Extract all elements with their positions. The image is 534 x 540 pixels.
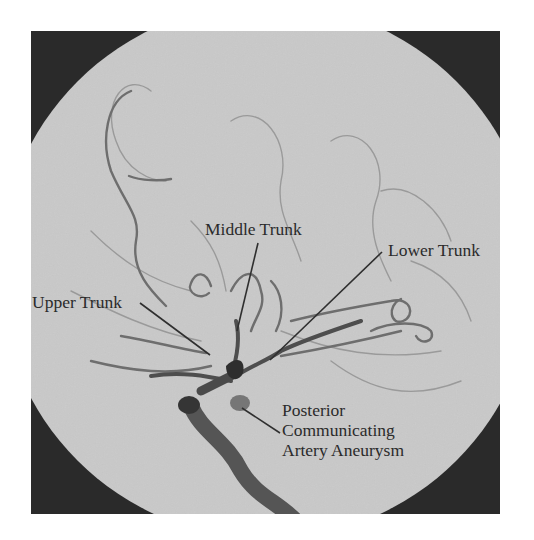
label-upper-trunk: Upper Trunk xyxy=(32,292,122,312)
field-of-view xyxy=(31,31,500,514)
angiogram-image xyxy=(31,31,500,514)
label-aneurysm-line-1: Posterior xyxy=(282,400,404,420)
label-middle-trunk: Middle Trunk xyxy=(205,219,302,239)
label-lower-trunk: Lower Trunk xyxy=(388,240,480,260)
label-aneurysm-line-2: Communicating xyxy=(282,420,404,440)
aneurysm-sac xyxy=(230,395,250,411)
angiogram-figure: Middle Trunk Lower Trunk Upper Trunk Pos… xyxy=(31,31,500,514)
label-aneurysm: Posterior Communicating Artery Aneurysm xyxy=(282,400,404,460)
label-aneurysm-line-3: Artery Aneurysm xyxy=(282,440,404,460)
